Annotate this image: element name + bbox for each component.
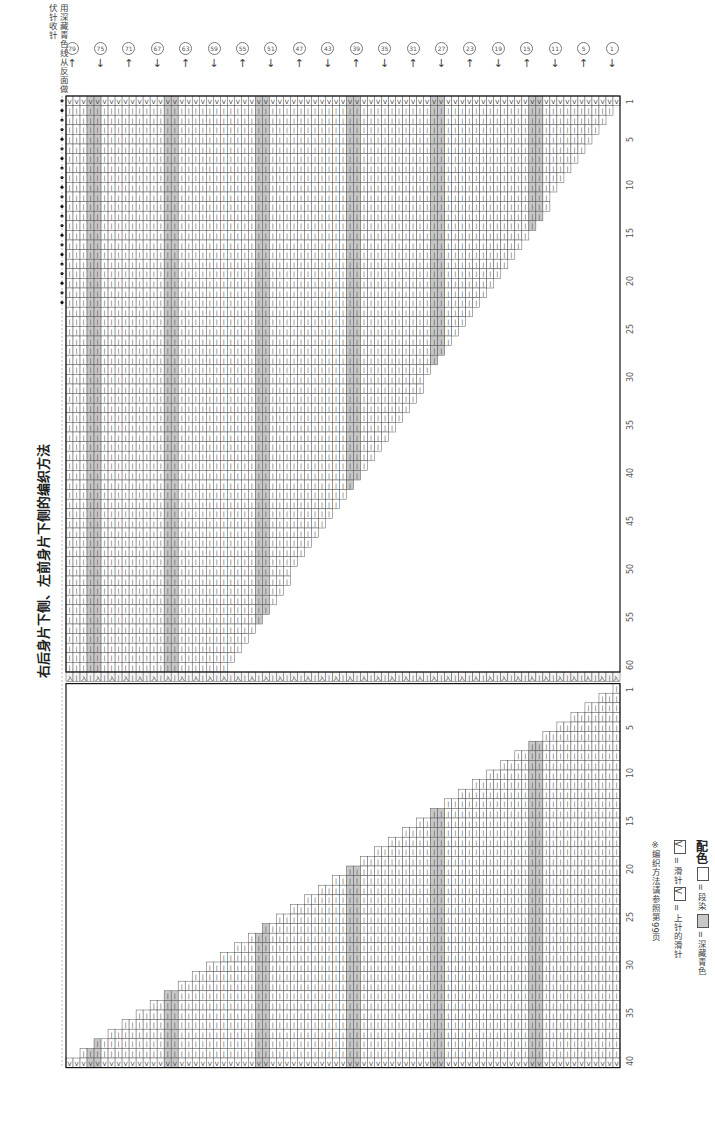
svg-text:|: | [244, 318, 246, 326]
svg-text:|: | [538, 752, 540, 760]
svg-text:|: | [587, 896, 589, 904]
svg-text:|: | [125, 414, 127, 422]
svg-text:|: | [391, 174, 393, 182]
svg-text:|: | [342, 1031, 344, 1039]
svg-text:|: | [83, 222, 85, 230]
svg-text:|: | [258, 424, 260, 432]
svg-text:|: | [573, 1040, 575, 1048]
svg-text:|: | [237, 299, 239, 307]
svg-text:|: | [342, 165, 344, 173]
svg-text:|: | [230, 261, 232, 269]
svg-text:|: | [167, 472, 169, 480]
svg-text:|: | [76, 213, 78, 221]
svg-text:|: | [307, 453, 309, 461]
svg-text:|: | [510, 887, 512, 895]
svg-text:|: | [258, 539, 260, 547]
svg-text:|: | [209, 155, 211, 163]
svg-text:|: | [293, 222, 295, 230]
svg-text:|: | [132, 261, 134, 269]
svg-text:|: | [349, 155, 351, 163]
svg-text:|: | [433, 203, 435, 211]
svg-text:|: | [377, 925, 379, 933]
svg-text:|: | [349, 983, 351, 991]
svg-text:|: | [125, 194, 127, 202]
svg-text:|: | [398, 386, 400, 394]
svg-text:|: | [384, 146, 386, 154]
svg-text:|: | [615, 733, 617, 741]
svg-text:|: | [153, 203, 155, 211]
svg-text:|: | [426, 858, 428, 866]
svg-text:|: | [335, 992, 337, 1000]
svg-text:|: | [272, 549, 274, 557]
svg-text:|: | [321, 992, 323, 1000]
svg-text:|: | [272, 462, 274, 470]
svg-text:|: | [545, 992, 547, 1000]
svg-text:|: | [237, 992, 239, 1000]
svg-text:|: | [356, 916, 358, 924]
svg-text:|: | [244, 126, 246, 134]
svg-text:|: | [412, 146, 414, 154]
svg-text:|: | [587, 714, 589, 722]
svg-text:|: | [209, 347, 211, 355]
svg-text:|: | [328, 453, 330, 461]
svg-text:|: | [300, 107, 302, 115]
svg-text:|: | [538, 1002, 540, 1010]
svg-text:|: | [538, 107, 540, 115]
svg-text:|: | [538, 820, 540, 828]
svg-text:|: | [349, 434, 351, 442]
svg-text:|: | [370, 395, 372, 403]
svg-text:|: | [615, 983, 617, 991]
svg-text:|: | [125, 242, 127, 250]
svg-text:|: | [538, 146, 540, 154]
svg-text:|: | [195, 414, 197, 422]
svg-text:|: | [223, 376, 225, 384]
svg-text:|: | [587, 983, 589, 991]
svg-text:|: | [356, 1031, 358, 1039]
svg-text:|: | [510, 877, 512, 885]
svg-text:|: | [587, 126, 589, 134]
svg-text:|: | [314, 405, 316, 413]
svg-text:|: | [370, 983, 372, 991]
svg-text:|: | [160, 165, 162, 173]
svg-text:|: | [573, 136, 575, 144]
svg-text:|: | [167, 280, 169, 288]
svg-text:|: | [104, 501, 106, 509]
svg-text:|: | [419, 126, 421, 134]
svg-text:|: | [412, 347, 414, 355]
svg-text:|: | [237, 165, 239, 173]
svg-text:|: | [454, 906, 456, 914]
svg-text:|: | [244, 376, 246, 384]
svg-text:|: | [286, 213, 288, 221]
svg-text:|: | [496, 839, 498, 847]
svg-text:|: | [503, 781, 505, 789]
svg-text:|: | [223, 568, 225, 576]
svg-text:|: | [97, 558, 99, 566]
svg-text:|: | [517, 810, 519, 818]
svg-text:|: | [160, 155, 162, 163]
svg-text:|: | [601, 762, 603, 770]
svg-text:|: | [538, 944, 540, 952]
svg-text:|: | [83, 520, 85, 528]
svg-text:|: | [209, 251, 211, 259]
svg-text:|: | [328, 1031, 330, 1039]
svg-text:|: | [377, 848, 379, 856]
svg-text:|: | [174, 1021, 176, 1029]
svg-text:|: | [468, 126, 470, 134]
svg-text:|: | [377, 155, 379, 163]
svg-text:|: | [293, 510, 295, 518]
svg-text:|: | [517, 1002, 519, 1010]
svg-text:|: | [342, 222, 344, 230]
svg-text:|: | [580, 752, 582, 760]
svg-text:|: | [230, 222, 232, 230]
svg-text:|: | [461, 983, 463, 991]
svg-text:|: | [321, 501, 323, 509]
svg-text:|: | [202, 482, 204, 490]
svg-text:|: | [195, 347, 197, 355]
svg-text:|: | [391, 126, 393, 134]
svg-text:|: | [237, 491, 239, 499]
svg-text:|: | [489, 848, 491, 856]
svg-text:|: | [601, 1031, 603, 1039]
svg-text:|: | [475, 280, 477, 288]
svg-text:|: | [503, 829, 505, 837]
svg-text:|: | [489, 146, 491, 154]
